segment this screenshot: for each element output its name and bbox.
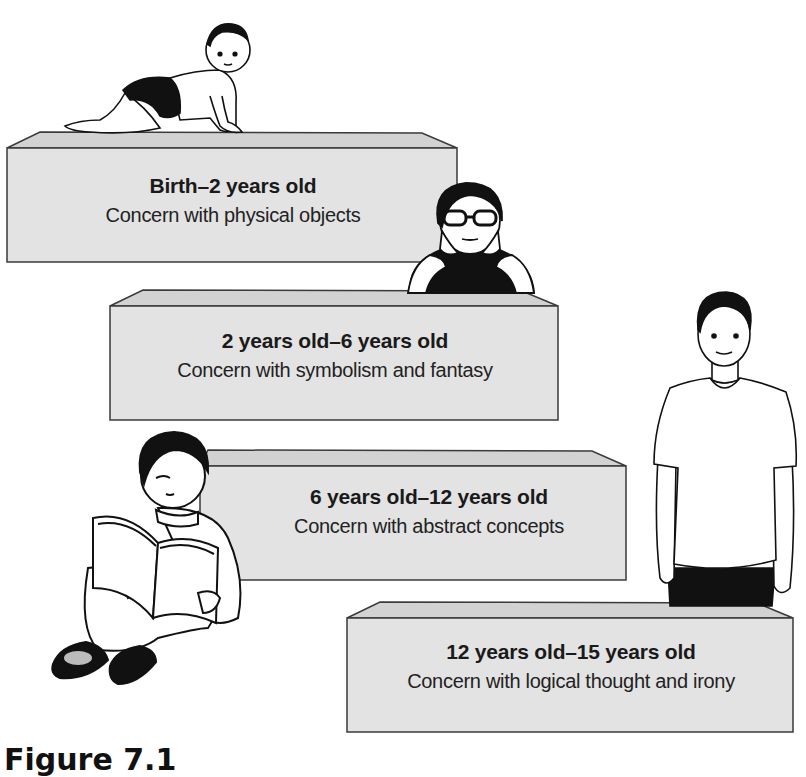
stage-age-range: 6 years old–12 years old [230,485,628,509]
stage-description: Concern with symbolism and fantasy [110,359,560,382]
crawling-baby-illustration [60,8,260,138]
stage-block-1: Birth–2 years old Concern with physical … [7,132,459,264]
stage-block-3: 6 years old–12 years old Concern with ab… [200,450,628,582]
stage-description: Concern with physical objects [7,204,459,227]
stage-description: Concern with abstract concepts [230,515,628,538]
stage-age-range: 12 years old–15 years old [347,640,795,664]
stage-description: Concern with logical thought and irony [347,670,795,693]
stage-age-range: 2 years old–6 years old [110,329,560,353]
stage-block-4: 12 years old–15 years old Concern with l… [347,602,795,734]
stage-age-range: Birth–2 years old [7,174,459,198]
child-with-glasses-illustration [400,175,540,305]
figure-caption: Figure 7.1 [4,742,176,777]
standing-teen-illustration [650,288,800,608]
boy-reading-book-illustration [48,428,253,690]
stage-block-2: 2 years old–6 years old Concern with sym… [110,290,560,422]
